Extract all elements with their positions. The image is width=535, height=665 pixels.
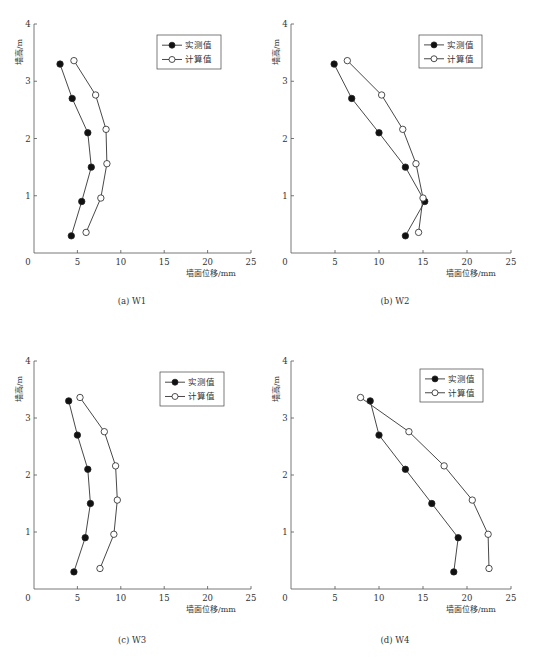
calculated-point xyxy=(101,428,107,434)
y-tick-label: 2 xyxy=(25,134,30,144)
y-tick-label: 3 xyxy=(25,76,30,86)
figure-4-panel-wall-displacement: 05101520251234墙面位移/mm墙高/m实测值计算值(a) W1 05… xyxy=(0,0,535,665)
measured-point xyxy=(87,500,93,506)
x-tick-label: 25 xyxy=(506,257,517,267)
legend-measured-label: 实测值 xyxy=(188,377,215,387)
x-tick-label: 15 xyxy=(159,257,170,267)
x-tick-label: 25 xyxy=(506,593,517,603)
legend-measured-label: 实测值 xyxy=(185,40,212,50)
measured-point xyxy=(66,398,72,404)
calculated-point xyxy=(103,126,109,132)
x-axis-title: 墙面位移/mm xyxy=(186,268,236,278)
x-tick-label: 20 xyxy=(462,257,473,267)
chart-panel-w4: 05101520251234墙面位移/mm墙高/m实测值计算值(d) W4 xyxy=(271,356,516,645)
x-tick-label: 0 xyxy=(282,593,287,603)
calculated-point xyxy=(344,57,350,63)
y-tick-label: 4 xyxy=(282,19,287,29)
measured-point xyxy=(402,466,408,472)
calculated-point xyxy=(97,565,103,571)
measured-point xyxy=(455,535,461,541)
y-axis-title: 墙高/m xyxy=(271,375,281,402)
calculated-point xyxy=(485,531,491,537)
x-tick-label: 15 xyxy=(418,257,429,267)
legend-open-circle-icon xyxy=(432,390,438,396)
x-tick-label: 10 xyxy=(374,257,385,267)
calculated-point xyxy=(114,497,120,503)
y-tick-label: 3 xyxy=(282,76,287,86)
measured-point xyxy=(79,198,85,204)
x-tick-label: 0 xyxy=(25,593,30,603)
calculated-point xyxy=(357,394,363,400)
x-axis-title: 墙面位移/mm xyxy=(186,604,236,614)
x-tick-label: 15 xyxy=(418,593,429,603)
y-tick-label: 2 xyxy=(25,470,30,480)
y-tick-label: 1 xyxy=(282,191,287,201)
measured-point xyxy=(74,432,80,438)
y-axis-title: 墙高/m xyxy=(271,38,281,65)
chart-panel-w3: 05101520251234墙面位移/mm墙高/m实测值计算值(c) W3 xyxy=(14,356,256,645)
calculated-line xyxy=(74,61,107,233)
x-tick-label: 20 xyxy=(462,593,473,603)
panel-caption: (a) W1 xyxy=(118,296,147,306)
chart-panel-w2: 05101520251234墙面位移/mm墙高/m实测值计算值(b) W2 xyxy=(271,19,516,306)
measured-line xyxy=(370,401,458,572)
measured-point xyxy=(402,233,408,239)
x-tick-label: 5 xyxy=(75,257,80,267)
calculated-point xyxy=(111,531,117,537)
panel-caption: (d) W4 xyxy=(381,635,410,645)
measured-point xyxy=(331,61,337,67)
legend: 实测值计算值 xyxy=(420,369,483,402)
calculated-point xyxy=(469,497,475,503)
calculated-point xyxy=(71,57,77,63)
calculated-point xyxy=(112,463,118,469)
y-tick-label: 1 xyxy=(25,191,30,201)
measured-point xyxy=(349,95,355,101)
measured-point xyxy=(451,569,457,575)
measured-point xyxy=(376,432,382,438)
measured-point xyxy=(69,95,75,101)
x-tick-label: 10 xyxy=(115,257,126,267)
x-tick-label: 0 xyxy=(282,257,287,267)
x-tick-label: 25 xyxy=(246,593,257,603)
x-axis-title: 墙面位移/mm xyxy=(446,268,496,278)
legend-measured-label: 实测值 xyxy=(447,40,474,50)
legend-open-circle-icon xyxy=(431,56,437,62)
measured-point xyxy=(68,233,74,239)
measured-point xyxy=(71,569,77,575)
legend-open-circle-icon xyxy=(169,56,175,62)
legend-filled-circle-icon xyxy=(431,42,437,48)
calculated-point xyxy=(415,229,421,235)
measured-point xyxy=(402,164,408,170)
x-tick-label: 5 xyxy=(332,257,337,267)
y-tick-label: 3 xyxy=(282,413,287,423)
calculated-point xyxy=(77,394,83,400)
calculated-point xyxy=(406,428,412,434)
measured-point xyxy=(85,130,91,136)
calculated-point xyxy=(441,463,447,469)
calculated-point xyxy=(486,565,492,571)
chart-panel-w1: 05101520251234墙面位移/mm墙高/m实测值计算值(a) W1 xyxy=(14,19,256,306)
calculated-line xyxy=(347,61,423,233)
calculated-point xyxy=(378,92,384,98)
legend-calculated-label: 计算值 xyxy=(188,391,215,401)
y-axis-title: 墙高/m xyxy=(14,38,24,65)
y-tick-label: 4 xyxy=(25,356,30,366)
panel-caption: (b) W2 xyxy=(381,296,410,306)
calculated-point xyxy=(420,195,426,201)
legend-filled-circle-icon xyxy=(432,376,438,382)
legend-calculated-label: 计算值 xyxy=(448,388,475,398)
legend: 实测值计算值 xyxy=(157,35,221,69)
y-tick-label: 1 xyxy=(25,527,30,537)
calculated-line xyxy=(80,398,117,569)
measured-point xyxy=(57,61,63,67)
calculated-point xyxy=(98,195,104,201)
y-tick-label: 4 xyxy=(282,356,287,366)
legend-calculated-label: 计算值 xyxy=(447,54,474,64)
y-tick-label: 2 xyxy=(282,470,287,480)
legend-filled-circle-icon xyxy=(169,42,175,48)
legend-calculated-label: 计算值 xyxy=(185,54,212,64)
calculated-line xyxy=(361,398,490,569)
calculated-point xyxy=(83,229,89,235)
legend-filled-circle-icon xyxy=(172,379,178,385)
measured-point xyxy=(429,500,435,506)
